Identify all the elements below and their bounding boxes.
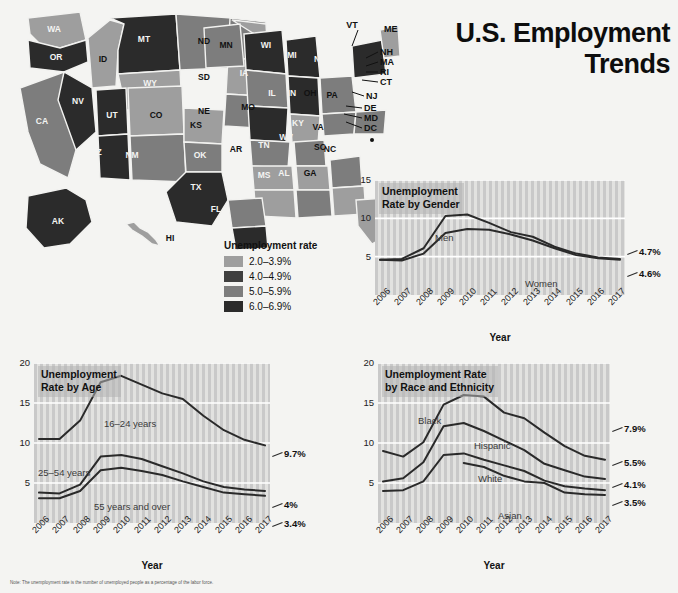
page-title: U.S. Employment Trends — [370, 18, 670, 80]
y-axis-tick-age: 15 — [8, 397, 30, 408]
us-choropleth-map: WA OR ID MT ND SD NE WY NV CA UT CO AZ N… — [0, 0, 400, 270]
y-axis-tick-race: 20 — [352, 357, 374, 368]
svg-text:OK: OK — [194, 150, 208, 160]
chart-unemployment-by-race-ethnicity: Unemployment Rate by Race and Ethnicity … — [352, 355, 678, 585]
infographic-page: U.S. Employment Trends — [0, 0, 678, 593]
chart-title-gender: Unemployment Rate by Gender — [379, 183, 464, 214]
svg-text:SD: SD — [198, 72, 210, 82]
chart-title-line1: Unemployment — [41, 368, 117, 380]
y-axis-tick-race: 5 — [352, 477, 374, 488]
legend-item: 4.0–4.9% — [224, 270, 354, 283]
page-title-line1: U.S. Employment — [455, 18, 670, 48]
y-axis-tick-age: 10 — [8, 437, 30, 448]
svg-text:MA: MA — [380, 57, 394, 67]
svg-text:CO: CO — [150, 110, 163, 120]
y-axis-tick-gender: 5 — [357, 251, 371, 262]
chart-unemployment-by-gender: Unemployment Rate by Gender Year 51015Me… — [357, 172, 672, 347]
series-end-value: 9.7% — [284, 448, 306, 459]
svg-text:OR: OR — [50, 52, 63, 62]
svg-text:TN: TN — [258, 140, 269, 150]
legend-title: Unemployment rate — [224, 240, 354, 251]
series-end-leader — [612, 427, 623, 432]
svg-text:VA: VA — [312, 122, 323, 132]
series-end-value: 4.7% — [639, 246, 661, 257]
y-axis-tick-gender: 10 — [357, 212, 371, 223]
series-label: 25–54 years — [38, 467, 90, 478]
svg-text:NE: NE — [198, 106, 210, 116]
page-title-line2: Trends — [584, 49, 670, 79]
x-axis-title-age: Year — [34, 560, 270, 571]
svg-text:MI: MI — [287, 50, 296, 60]
svg-text:IL: IL — [268, 88, 276, 98]
svg-text:NM: NM — [125, 150, 138, 160]
svg-text:KS: KS — [190, 120, 202, 130]
svg-text:ME: ME — [384, 24, 398, 34]
svg-text:WI: WI — [261, 40, 271, 50]
legend-swatch — [224, 286, 243, 297]
legend-label: 6.0–6.9% — [249, 301, 291, 312]
series-line — [380, 229, 620, 260]
svg-text:WY: WY — [143, 78, 157, 88]
series-end-leader — [272, 452, 283, 457]
svg-text:WA: WA — [47, 24, 61, 34]
svg-text:UT: UT — [106, 110, 118, 120]
y-axis-tick-age: 20 — [8, 357, 30, 368]
series-end-value: 5.5% — [624, 457, 646, 468]
legend-item: 2.0–3.9% — [224, 255, 354, 268]
svg-text:MT: MT — [138, 34, 151, 44]
y-axis-tick-age: 5 — [8, 477, 30, 488]
chart-title-line1: Unemployment — [382, 185, 458, 197]
series-end-leader — [612, 501, 623, 506]
svg-text:DC: DC — [364, 123, 377, 133]
legend-label: 5.0–5.9% — [249, 286, 291, 297]
svg-text:NJ: NJ — [366, 91, 378, 101]
source-note: Note: The unemployment rate is the numbe… — [10, 580, 213, 587]
series-label: 16–24 years — [104, 418, 156, 429]
svg-text:AR: AR — [230, 144, 242, 154]
svg-text:WV: WV — [279, 132, 293, 142]
series-line — [380, 215, 620, 260]
series-end-value: 4.1% — [624, 479, 646, 490]
svg-text:IN: IN — [288, 88, 297, 98]
series-end-leader — [612, 461, 623, 466]
series-label: Black — [418, 415, 441, 426]
series-end-value: 4% — [284, 499, 298, 510]
series-end-leader — [272, 503, 283, 508]
legend-label: 2.0–3.9% — [249, 256, 291, 267]
chart-title-line1: Unemployment Rate — [385, 368, 487, 380]
series-label: Hispanic — [474, 440, 510, 451]
svg-text:ID: ID — [99, 54, 108, 64]
svg-text:AK: AK — [52, 216, 65, 226]
chart-title-line2: Rate by Gender — [382, 198, 460, 210]
y-axis-tick-race: 15 — [352, 397, 374, 408]
legend-swatch — [224, 256, 243, 267]
svg-text:NC: NC — [324, 144, 336, 154]
svg-text:LA: LA — [238, 168, 249, 178]
legend-swatch — [224, 301, 243, 312]
series-end-leader — [272, 522, 283, 527]
svg-text:AL: AL — [278, 168, 289, 178]
svg-text:NY: NY — [314, 54, 326, 64]
svg-text:MN: MN — [219, 40, 232, 50]
svg-text:VT: VT — [346, 20, 358, 30]
series-end-value: 3.5% — [624, 497, 646, 508]
legend-swatch — [224, 271, 243, 282]
series-label: 55 years and over — [94, 501, 170, 512]
chart-title-line2: by Race and Ethnicity — [385, 381, 494, 393]
series-label: Men — [435, 232, 453, 243]
series-end-leader — [612, 483, 623, 488]
chart-title-age: Unemployment Rate by Age — [38, 366, 121, 397]
svg-text:CT: CT — [380, 77, 392, 87]
series-end-leader — [627, 272, 638, 277]
map-legend: Unemployment rate 2.0–3.9% 4.0–4.9% 5.0–… — [224, 240, 354, 315]
svg-text:GA: GA — [304, 168, 317, 178]
series-end-value: 3.4% — [284, 518, 306, 529]
svg-text:NV: NV — [72, 96, 84, 106]
series-label: White — [478, 473, 502, 484]
series-end-value: 4.6% — [639, 268, 661, 279]
svg-text:RI: RI — [380, 67, 389, 77]
svg-text:HI: HI — [166, 233, 175, 243]
x-axis-title-race: Year — [378, 560, 610, 571]
svg-text:MD: MD — [364, 113, 378, 123]
chart-title-line2: Rate by Age — [41, 381, 101, 393]
